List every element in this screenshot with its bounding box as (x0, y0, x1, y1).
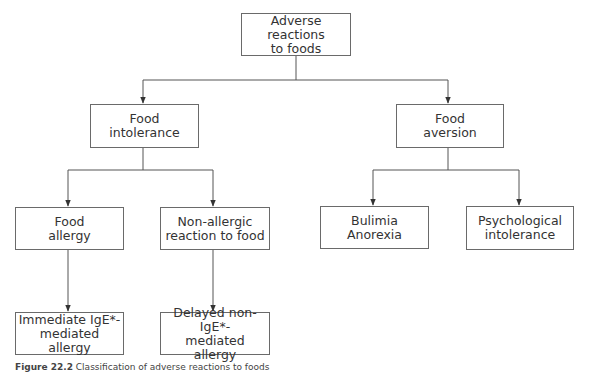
figure-caption: Figure 22.2 Classification of adverse re… (15, 362, 269, 372)
node-label: Immediate IgE*- mediated allergy (18, 313, 121, 355)
node-non-allergic-reaction: Non-allergic reaction to food (160, 207, 270, 250)
node-label: Food allergy (48, 215, 91, 243)
node-delayed-non-ige-allergy: Delayed non-IgE*- mediated allergy (160, 312, 270, 355)
node-food-allergy: Food allergy (15, 207, 124, 250)
node-adverse-reactions: Adverse reactions to foods (241, 13, 351, 56)
node-label: Psychological intolerance (478, 214, 562, 242)
node-label: Delayed non-IgE*- mediated allergy (163, 306, 267, 362)
figure-caption-text: Classification of adverse reactions to f… (73, 362, 269, 372)
node-immediate-ige-allergy: Immediate IgE*- mediated allergy (15, 312, 124, 355)
node-label: Food aversion (423, 112, 476, 140)
node-label: Food intolerance (109, 112, 179, 140)
figure-number: Figure 22.2 (15, 362, 73, 372)
node-label: Bulimia Anorexia (347, 214, 402, 242)
node-bulimia-anorexia: Bulimia Anorexia (320, 206, 429, 249)
node-psychological-intolerance: Psychological intolerance (466, 206, 574, 250)
node-label: Adverse reactions to foods (244, 14, 348, 56)
node-label: Non-allergic reaction to food (165, 215, 264, 243)
node-food-intolerance: Food intolerance (90, 104, 199, 148)
node-food-aversion: Food aversion (396, 104, 504, 148)
